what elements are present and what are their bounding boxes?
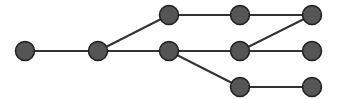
node-n3 <box>160 6 179 25</box>
edge-n2-n3 <box>98 15 169 51</box>
node-n9 <box>303 42 322 61</box>
node-n4 <box>160 42 179 61</box>
node-n1 <box>16 42 35 61</box>
node-n5 <box>231 6 250 25</box>
node-n2 <box>89 42 108 61</box>
tree-diagram <box>0 0 337 100</box>
node-n7 <box>231 78 250 97</box>
node-n10 <box>303 78 322 97</box>
node-n6 <box>231 42 250 61</box>
node-n8 <box>303 6 322 25</box>
edge-n6-n8 <box>240 15 312 51</box>
edge-n4-n7 <box>169 51 240 87</box>
